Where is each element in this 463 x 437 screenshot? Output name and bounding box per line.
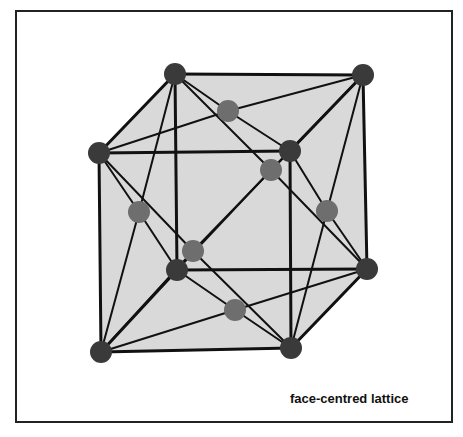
figure-caption: face-centred lattice [290, 391, 409, 406]
lattice-edge [99, 153, 101, 352]
face-atom-right [316, 200, 338, 222]
face-atom-back [260, 159, 282, 181]
face-atom-left [128, 201, 150, 223]
corner-atom-tfr [279, 140, 301, 162]
corner-atom-tfl [88, 142, 110, 164]
lattice-edge [177, 269, 367, 270]
corner-atom-bbr [356, 258, 378, 280]
face-atom-front [182, 240, 204, 262]
corner-atom-tbl [164, 63, 186, 85]
lattice-edge [99, 151, 290, 153]
lattice-edge [175, 74, 363, 75]
corner-atom-tbr [352, 64, 374, 86]
lattice-edge [175, 74, 177, 270]
corner-atom-bfl [90, 341, 112, 363]
corner-atom-bbl [166, 259, 188, 281]
lattice-edge [290, 151, 291, 348]
fcc-lattice-diagram [0, 0, 463, 437]
face-atom-top [217, 100, 239, 122]
face-atom-bottom [224, 299, 246, 321]
corner-atom-bfr [280, 337, 302, 359]
